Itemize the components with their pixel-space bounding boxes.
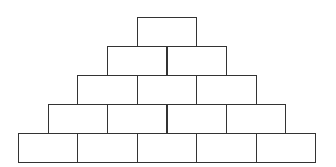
- brick-row4-1: [48, 104, 108, 134]
- brick-row5-2: [77, 133, 137, 163]
- brick-row5-1: [18, 133, 78, 163]
- brick-row3-1: [77, 75, 137, 105]
- brick-row4-3: [167, 104, 227, 134]
- brick-row2-2: [167, 46, 227, 76]
- brick-row2-1: [107, 46, 167, 76]
- brick-row3-3: [196, 75, 256, 105]
- brick-row3-2: [137, 75, 197, 105]
- brick-row5-5: [256, 133, 316, 163]
- brick-row5-4: [196, 133, 256, 163]
- brick-row4-2: [107, 104, 167, 134]
- brick-pyramid-diagram: [0, 0, 336, 167]
- brick-row4-4: [226, 104, 286, 134]
- brick-row5-3: [137, 133, 197, 163]
- brick-row1-1: [137, 17, 197, 47]
